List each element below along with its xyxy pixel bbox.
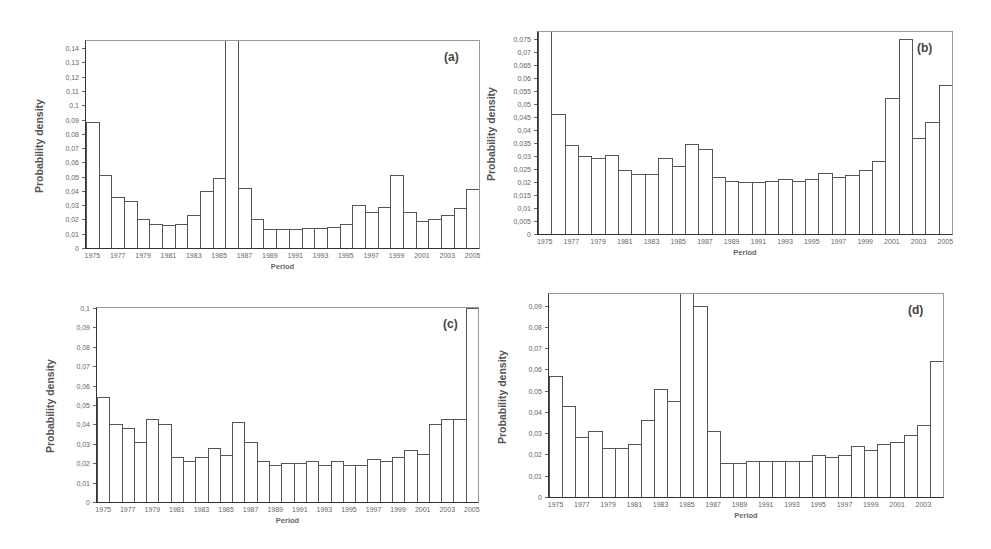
histogram-bar: [109, 424, 122, 502]
panel-label: (d): [908, 303, 923, 317]
histogram-bar: [549, 376, 563, 497]
histogram-bar: [392, 457, 405, 502]
y-axis-label: Probability density: [496, 350, 508, 444]
x-tick-label: 1999: [863, 501, 879, 508]
histogram-bar: [859, 170, 873, 234]
histogram-bar: [146, 419, 159, 502]
histogram-bar: [417, 454, 430, 503]
y-tick-mark: [534, 156, 537, 157]
y-tick-label: 0,01: [56, 479, 90, 486]
y-tick-label: 0,01: [508, 472, 542, 479]
histogram-bar: [631, 174, 645, 234]
histogram-bar: [466, 189, 480, 248]
y-tick-label: 0,075: [497, 35, 531, 42]
y-tick-mark: [82, 91, 85, 92]
panel-label: (c): [443, 317, 458, 331]
histogram-bar: [111, 197, 125, 248]
histogram-bar: [99, 175, 113, 248]
histogram-bar: [602, 448, 616, 497]
y-tick-label: 0: [508, 494, 542, 501]
y-tick-mark: [82, 248, 85, 249]
y-tick-label: 0,02: [56, 460, 90, 467]
histogram-bar: [752, 182, 766, 234]
y-tick-mark: [534, 130, 537, 131]
x-tick-label: 2001: [415, 506, 431, 513]
histogram-bar: [244, 442, 257, 502]
histogram-bar: [698, 149, 712, 234]
y-tick-mark: [545, 433, 548, 434]
histogram-bar: [306, 461, 319, 502]
histogram-bar: [302, 228, 316, 248]
histogram-bar: [453, 419, 466, 502]
histogram-bar: [939, 85, 953, 234]
x-tick-label: 1979: [135, 252, 151, 259]
y-tick-label: 0,1: [56, 305, 90, 312]
x-tick-label: 2003: [439, 506, 455, 513]
y-tick-mark: [534, 65, 537, 66]
histogram-bar: [195, 457, 208, 502]
y-tick-label: 0,11: [45, 87, 79, 94]
y-tick-label: 0,045: [497, 113, 531, 120]
histogram-bar: [825, 457, 839, 497]
x-tick-label: 1991: [292, 506, 308, 513]
y-tick-label: 0,08: [45, 130, 79, 137]
histogram-bar: [685, 144, 699, 234]
histogram-bar: [693, 306, 707, 497]
y-tick-mark: [93, 444, 96, 445]
histogram-bar: [851, 446, 865, 497]
y-tick-mark: [93, 405, 96, 406]
x-tick-label: 1993: [313, 252, 329, 259]
histogram-bar: [562, 406, 576, 497]
x-axis-label: Period: [271, 262, 294, 271]
x-tick-label: 1981: [169, 506, 185, 513]
histogram-bar: [238, 188, 252, 248]
histogram-bar: [551, 114, 565, 234]
y-tick-mark: [82, 77, 85, 78]
histogram-bar: [466, 308, 479, 502]
x-tick-label: 2003: [440, 252, 456, 259]
histogram-bar: [818, 173, 832, 234]
histogram-bar: [367, 459, 380, 502]
histogram-bar: [645, 174, 659, 234]
histogram-bar: [149, 224, 163, 248]
histogram-bar: [314, 228, 328, 248]
histogram-bar: [877, 444, 891, 497]
histogram-bar: [733, 463, 747, 497]
x-tick-label: 1999: [390, 506, 406, 513]
x-tick-label: 1981: [617, 238, 633, 245]
histogram-bar: [864, 450, 878, 497]
histogram-bar: [588, 431, 602, 497]
y-tick-mark: [534, 39, 537, 40]
y-tick-mark: [545, 369, 548, 370]
x-tick-label: 2001: [414, 252, 430, 259]
y-tick-label: 0,06: [497, 74, 531, 81]
y-tick-label: 0,065: [497, 61, 531, 68]
histogram-bar: [124, 201, 138, 248]
y-tick-mark: [534, 195, 537, 196]
x-tick-label: 1975: [85, 252, 101, 259]
x-tick-label: 2005: [464, 506, 480, 513]
x-tick-label: 1997: [837, 501, 853, 508]
y-tick-mark: [82, 134, 85, 135]
x-tick-label: 1975: [537, 238, 553, 245]
y-tick-label: 0,09: [56, 324, 90, 331]
y-tick-mark: [545, 348, 548, 349]
y-tick-mark: [82, 191, 85, 192]
histogram-bar: [707, 431, 721, 497]
histogram-bar: [232, 422, 245, 502]
y-tick-mark: [93, 463, 96, 464]
y-tick-mark: [545, 412, 548, 413]
y-tick-label: 0,09: [508, 302, 542, 309]
x-tick-label: 1977: [120, 506, 136, 513]
x-tick-label: 1985: [679, 501, 695, 508]
histogram-bar: [251, 219, 265, 248]
histogram-bar: [615, 448, 629, 497]
y-tick-label: 0: [45, 245, 79, 252]
histogram-bar: [832, 177, 846, 234]
y-tick-label: 0,1: [45, 102, 79, 109]
x-tick-label: 2001: [889, 501, 905, 508]
panel-label: (a): [444, 50, 459, 64]
plot-area-c: [96, 307, 479, 503]
y-tick-label: 0,03: [497, 152, 531, 159]
histogram-bar: [658, 158, 672, 234]
